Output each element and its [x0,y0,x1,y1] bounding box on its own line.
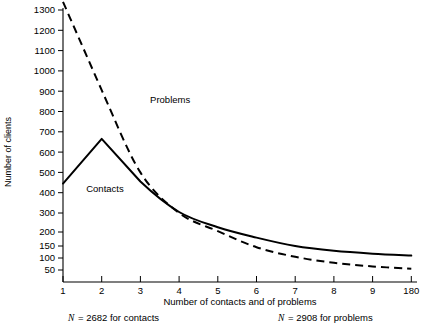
x-tick-label: 9 [370,285,375,296]
footnote-problems-symbol: N [278,313,285,323]
y-axis-title: Number of clients [3,116,13,187]
x-tick-group: 123456789180 [60,276,419,296]
footnote-contacts-symbol: N [68,313,75,323]
y-tick-label: 700 [39,126,55,137]
x-tick-label: 3 [138,285,143,296]
y-tick-label: 100 [39,252,55,263]
y-tick-group: 5010015020030040050060070080090010001100… [34,4,63,275]
y-tick-label: 800 [39,106,55,117]
series-line-problems [63,2,411,269]
footnote-problems: N = 2908 for problems [278,312,373,323]
x-tick-label: 5 [215,285,220,296]
y-tick-label: 300 [39,207,55,218]
x-tick-label: 7 [293,285,298,296]
y-tick-label: 1000 [34,65,55,76]
series-line-contacts [63,139,411,256]
y-tick-label: 1200 [34,25,55,36]
y-tick-label: 600 [39,147,55,158]
y-tick-label: 900 [39,86,55,97]
footnote-problems-text: = 2908 for problems [288,312,373,323]
line-chart: 5010015020030040050060070080090010001100… [0,0,432,330]
footnote-row: N = 2682 for contacts N = 2908 for probl… [0,310,432,330]
x-tick-label: 4 [176,285,181,296]
x-axis-title: Number of contacts and of problems [163,296,316,307]
x-tick-label: 6 [254,285,259,296]
y-tick-label: 1100 [35,45,55,56]
series-label-problems: Problems [150,94,190,105]
y-axis: 5010015020030040050060070080090010001100… [34,4,63,282]
x-axis: 123456789180 [60,276,419,296]
y-tick-label: 400 [39,187,55,198]
x-tick-label: 2 [99,285,104,296]
footnote-contacts: N = 2682 for contacts [68,312,159,323]
y-tick-label: 1300 [34,4,55,15]
x-tick-label: 180 [403,285,419,296]
y-tick-label: 200 [39,226,55,237]
figure-container: 5010015020030040050060070080090010001100… [0,0,432,330]
x-tick-label: 1 [60,285,65,296]
x-tick-label: 8 [331,285,336,296]
footnote-contacts-text: = 2682 for contacts [78,312,159,323]
series-label-contacts: Contacts [86,183,124,194]
y-tick-label: 50 [44,264,55,275]
y-tick-label: 150 [39,240,55,251]
y-tick-label: 500 [39,167,55,178]
